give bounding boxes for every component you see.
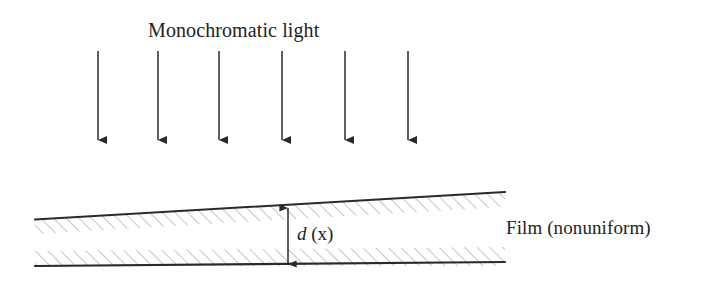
thickness-label-variable: d [297,223,307,244]
incident-light-rays [98,51,408,140]
film-label: Film (nonuniform) [506,217,651,239]
diagram-title: Monochromatic light [148,19,319,42]
figure-canvas: Monochromatic light d (x) Film (nonunifo… [0,0,715,287]
film-lower-hatch-band [30,243,510,271]
thickness-label-argument: (x) [311,223,333,244]
film-hatching [30,185,510,271]
thickness-label: d (x) [297,223,333,245]
thin-film-interference-diagram [0,0,715,287]
